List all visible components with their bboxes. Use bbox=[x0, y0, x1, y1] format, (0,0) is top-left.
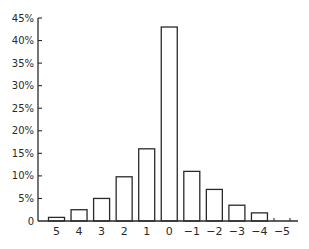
y-tick-label: 30% bbox=[12, 80, 34, 91]
x-tick-label: 0 bbox=[166, 225, 173, 238]
y-tick-label: 0 bbox=[28, 216, 34, 227]
bar-3 bbox=[116, 177, 132, 221]
x-tick-label: −4 bbox=[251, 225, 267, 238]
y-tick-label: 10% bbox=[12, 170, 34, 181]
x-tick-label: 5 bbox=[53, 225, 60, 238]
x-tick-label: −1 bbox=[184, 225, 200, 238]
bar-1 bbox=[71, 210, 87, 221]
y-tick-label: 25% bbox=[12, 103, 34, 114]
x-tick-label: 1 bbox=[143, 225, 150, 238]
y-tick-label: 40% bbox=[12, 35, 34, 46]
x-tick-label: −3 bbox=[229, 225, 245, 238]
bar-chart: 05%10%15%20%25%30%35%40%45% 543210−1−2−3… bbox=[0, 0, 309, 249]
y-axis: 05%10%15%20%25%30%35%40%45% bbox=[12, 13, 42, 227]
bar-2 bbox=[94, 198, 110, 221]
x-tick-label: 3 bbox=[98, 225, 105, 238]
bar-7 bbox=[206, 189, 222, 221]
bar-5 bbox=[161, 27, 177, 221]
x-tick-label: −2 bbox=[206, 225, 222, 238]
x-tick-label: −5 bbox=[274, 225, 290, 238]
y-tick-label: 45% bbox=[12, 13, 34, 24]
bar-4 bbox=[139, 149, 155, 221]
y-tick-label: 5% bbox=[18, 193, 34, 204]
y-tick-label: 20% bbox=[12, 125, 34, 136]
y-tick-label: 35% bbox=[12, 58, 34, 69]
bar-9 bbox=[251, 213, 267, 221]
bar-8 bbox=[229, 205, 245, 221]
x-axis: 543210−1−2−3−4−5 bbox=[38, 221, 298, 238]
x-tick-label: 2 bbox=[121, 225, 128, 238]
bar-6 bbox=[184, 171, 200, 221]
x-tick-label: 4 bbox=[76, 225, 83, 238]
y-tick-label: 15% bbox=[12, 148, 34, 159]
bars bbox=[49, 27, 291, 221]
